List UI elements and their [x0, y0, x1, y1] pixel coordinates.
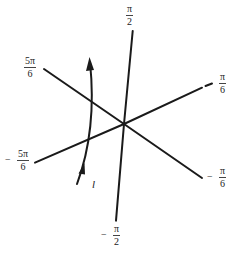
- ray-5pi-over-6: [44, 69, 124, 124]
- ray-pi-over-2: [124, 31, 133, 124]
- arrowhead-top-icon: [86, 57, 94, 71]
- label-minus-5pi-over-6: − 5π 6: [17, 149, 29, 172]
- label-pi-over-2: π 2: [126, 4, 133, 27]
- label-minus-pi-over-2: − π 2: [113, 224, 120, 247]
- label-pi-over-6: π 6: [219, 72, 226, 95]
- angle-rays-diagram: [0, 0, 235, 255]
- ray-pi-over-6-dash: [206, 84, 213, 87]
- ray-pi-over-6: [124, 88, 202, 124]
- arrowhead-bottom-icon: [79, 163, 86, 175]
- ray-minus-pi-over-2: [116, 124, 124, 221]
- curve-l: [77, 57, 94, 184]
- ray-minus-pi-over-6: [124, 124, 202, 178]
- label-minus-pi-over-6: − π 6: [219, 166, 226, 189]
- label-5pi-over-6: 5π 6: [24, 56, 36, 79]
- ray-minus-5pi-over-6: [35, 124, 124, 163]
- curve-label-l: l: [92, 178, 95, 190]
